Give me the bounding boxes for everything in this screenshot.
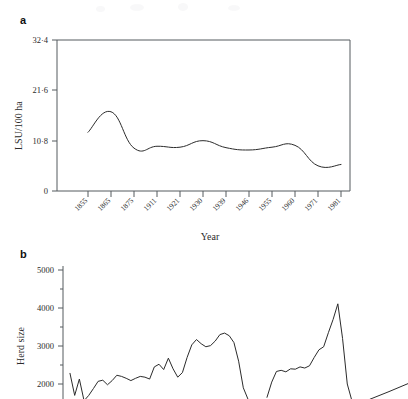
scan-speckle: [130, 4, 144, 11]
panel-a-x-axis-title: Year: [201, 231, 220, 242]
panel-a-xtick-label-4: 1921: [164, 196, 181, 213]
panel-b-ytick-label-2: 4000: [37, 303, 54, 313]
panel-label-a: a: [20, 14, 26, 26]
panel-a-y-ticks: [52, 40, 57, 191]
panel-a-xtick-label-10: 1971: [302, 196, 319, 213]
panel-b-y-axis-title: Herd size: [15, 326, 26, 365]
panel-b-data-line-segment-2: [267, 304, 352, 399]
panel-a-xtick-label-7: 1946: [233, 196, 250, 213]
panel-a-x-tick-labels: 1855 1865 1875 1911 1921 1930 1939 1946 …: [72, 196, 342, 213]
scan-speckle: [178, 3, 188, 11]
panel-a: 32·4 21·6 10·8 0 LSU/100 ha: [13, 35, 350, 242]
panel-a-ytick-label-2: 21·6: [32, 85, 48, 95]
panel-label-b: b: [20, 248, 27, 260]
panel-a-xtick-label-11: 1981: [325, 196, 342, 213]
panel-b-data-line-segment-1: [70, 333, 248, 399]
figure-container: a b 32·4 21·6 10·8 0 LSU/100 ha: [0, 0, 408, 399]
panel-a-xtick-label-6: 1939: [210, 196, 227, 213]
panel-a-xtick-label-2: 1875: [118, 196, 135, 213]
panel-b-ytick-label-0: 2000: [37, 379, 54, 389]
panel-a-xtick-label-8: 1955: [256, 196, 273, 213]
panel-a-ytick-label-3: 32·4: [32, 35, 48, 45]
scan-speckle: [96, 6, 105, 12]
panel-b-data-line-segment-3: [370, 384, 408, 399]
panel-a-xtick-label-9: 1960: [279, 196, 296, 213]
panel-b: 5000 4000 3000 2000 Herd size: [15, 265, 408, 399]
panel-a-xtick-label-1: 1865: [95, 196, 112, 213]
panel-a-ytick-label-0: 0: [44, 186, 48, 196]
scan-speckle: [228, 5, 240, 11]
figure-svg: 32·4 21·6 10·8 0 LSU/100 ha: [0, 0, 408, 399]
panel-b-ytick-label-3: 5000: [37, 265, 54, 275]
panel-a-x-ticks: [88, 191, 341, 197]
panel-b-ytick-label-1: 3000: [37, 341, 54, 351]
panel-a-xtick-label-5: 1930: [187, 196, 204, 213]
panel-a-data-line: [88, 111, 341, 167]
panel-a-xtick-label-3: 1911: [142, 196, 159, 213]
panel-a-y-axis-title: LSU/100 ha: [13, 101, 24, 150]
panel-a-ytick-label-1: 10·8: [32, 136, 48, 146]
panel-a-xtick-label-0: 1855: [72, 196, 89, 213]
